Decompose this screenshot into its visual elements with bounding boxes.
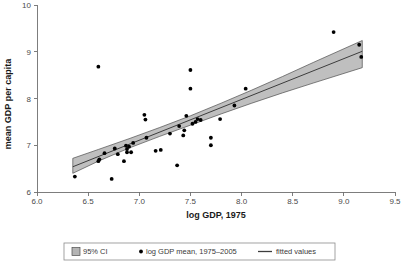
data-point [144,118,148,122]
data-point [184,114,188,118]
data-point [177,124,181,128]
legend-item-label: fitted values [276,247,316,256]
y-axis-tick-label: 8 [27,95,32,104]
chart-container: 678910 6.06.57.07.58.08.59.09.5 mean GDP… [0,0,410,266]
data-point [159,148,163,152]
x-axis-tick-label: 6.5 [83,197,95,206]
data-point [103,151,107,155]
data-point [97,157,101,161]
y-axis-title: mean GDP per capita [3,58,13,149]
data-point [189,87,193,91]
data-point [199,118,203,122]
data-point [182,128,186,132]
data-point [116,152,120,156]
data-point [131,141,135,145]
legend-item: log GDP mean, 1975–2005 [139,247,237,256]
data-point [113,147,117,151]
data-point [209,136,213,140]
data-point [359,55,363,59]
data-point [189,68,193,72]
data-point [122,159,126,163]
x-axis-title: log GDP, 1975 [186,210,245,220]
data-point [357,43,361,47]
scatter-plot: 678910 6.06.57.07.58.08.59.09.5 mean GDP… [0,0,410,266]
y-axis-tick-label: 7 [27,141,32,150]
data-point [181,134,185,138]
data-point [209,143,213,147]
data-point [218,117,222,121]
data-point [96,65,100,69]
data-point [129,150,133,154]
x-axis-tick-label: 7.0 [134,197,146,206]
legend-item-label: log GDP mean, 1975–2005 [146,247,237,256]
data-point [143,113,147,117]
x-axis-tick-label: 6.0 [31,197,43,206]
x-axis-tick-label: 9.5 [389,197,401,206]
legend-item: 95% CI [72,247,108,256]
data-point [125,150,129,154]
y-axis-tick-label: 6 [27,188,32,197]
y-axis-tick-label: 10 [22,1,31,10]
legend-point-dot-icon [139,250,143,254]
data-point [168,132,172,136]
x-axis-tick-label: 8.5 [287,197,299,206]
chart-background [0,0,410,266]
data-point [73,175,77,179]
x-axis-tick-label: 8.0 [236,197,248,206]
data-point [110,177,114,181]
data-point [175,163,179,167]
x-axis-tick-label: 7.5 [185,197,197,206]
data-point [244,87,248,91]
data-point [332,30,336,34]
data-point [233,104,237,108]
y-axis-tick-label: 9 [27,48,32,57]
legend-ci-swatch-icon [72,248,80,256]
data-point [145,136,149,140]
data-point [154,149,158,153]
legend-item-label: 95% CI [83,247,108,256]
data-point [127,145,131,149]
x-axis-tick-label: 9.0 [338,197,350,206]
chart-legend: 95% CIlog GDP mean, 1975–2005fitted valu… [64,243,335,260]
